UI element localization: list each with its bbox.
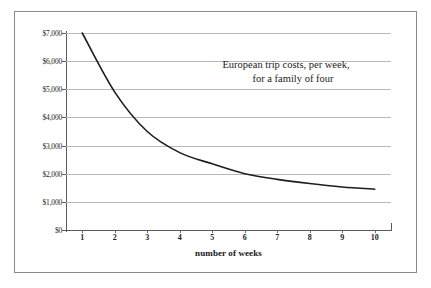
chart-figure: $0$1,000$2,000$3,000$4,000$5,000$6,000$7… — [0, 0, 431, 288]
x-axis-tick-label: 6 — [243, 233, 247, 242]
y-axis-tick-label: $0 — [55, 226, 62, 235]
y-axis-tick-label: $2,000 — [43, 169, 62, 178]
x-axis-tick-labels: 12345678910 — [66, 233, 391, 247]
y-axis-tick-labels: $0$1,000$2,000$3,000$4,000$5,000$6,000$7… — [14, 33, 62, 230]
y-axis-tick-mark — [62, 174, 66, 175]
y-axis-tick-mark — [62, 202, 66, 203]
x-axis-tick-label: 2 — [113, 233, 117, 242]
annotation-line-2: for a family of four — [196, 72, 376, 86]
x-axis-tick-label: 7 — [275, 233, 279, 242]
x-axis-tick-mark — [147, 230, 148, 233]
y-axis-tick-label: $4,000 — [43, 113, 62, 122]
x-axis-right-cap — [391, 223, 392, 231]
y-axis-tick-label: $6,000 — [43, 57, 62, 66]
x-axis-tick-mark — [115, 230, 116, 233]
x-axis-tick-mark — [245, 230, 246, 233]
y-axis-tick-label: $1,000 — [43, 197, 62, 206]
y-axis-tick-label: $7,000 — [43, 29, 62, 38]
y-axis-tick-mark — [62, 117, 66, 118]
series-path — [82, 33, 375, 189]
y-axis-tick-mark — [62, 33, 66, 34]
x-axis-tick-label: 9 — [340, 233, 344, 242]
x-axis-tick-label: 10 — [371, 233, 379, 242]
x-axis-title: number of weeks — [66, 248, 391, 258]
x-axis-tick-mark — [310, 230, 311, 233]
chart-annotation: European trip costs, per week, for a fam… — [196, 58, 376, 86]
x-axis-tick-mark — [277, 230, 278, 233]
x-axis-tick-label: 1 — [80, 233, 84, 242]
x-axis-tick-label: 5 — [210, 233, 214, 242]
x-axis-tick-mark — [180, 230, 181, 233]
y-axis-tick-mark — [62, 61, 66, 62]
y-axis-tick-label: $3,000 — [43, 141, 62, 150]
annotation-line-1: European trip costs, per week, — [222, 59, 349, 70]
x-axis-tick-label: 8 — [308, 233, 312, 242]
x-axis-tick-mark — [375, 230, 376, 233]
x-axis-tick-mark — [342, 230, 343, 233]
y-axis-tick-label: $5,000 — [43, 85, 62, 94]
x-axis-tick-mark — [212, 230, 213, 233]
x-axis-tick-mark — [82, 230, 83, 233]
x-axis-tick-label: 4 — [178, 233, 182, 242]
y-axis-tick-mark — [62, 89, 66, 90]
y-axis-tick-mark — [62, 230, 66, 231]
x-axis-tick-label: 3 — [145, 233, 149, 242]
y-axis-tick-mark — [62, 146, 66, 147]
